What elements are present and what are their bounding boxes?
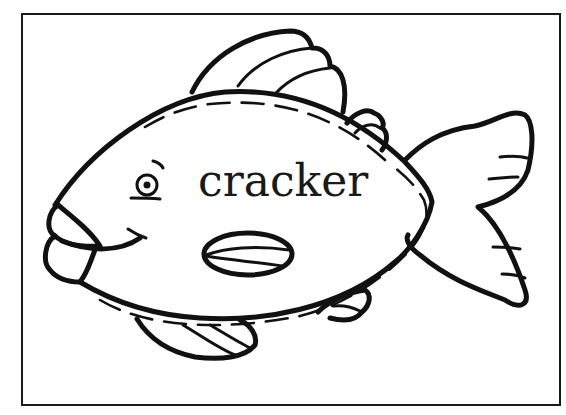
eye — [131, 161, 163, 199]
anal-fin — [318, 290, 369, 320]
tail-fin — [405, 113, 532, 305]
pectoral-fin — [204, 233, 292, 275]
fish-lips — [45, 205, 146, 282]
fish-illustration — [0, 0, 566, 415]
dorsal-fin — [192, 31, 345, 112]
word-label: cracker — [198, 155, 368, 207]
